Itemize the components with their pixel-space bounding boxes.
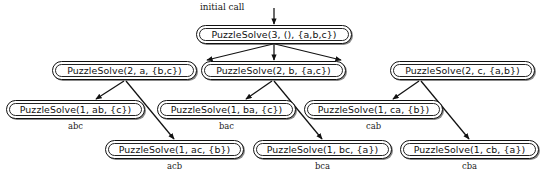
node-root-label: PuzzleSolve(3, (), {a,b,c}) — [209, 29, 338, 40]
node-leaf-ca-label: PuzzleSolve(1, ca, {b}) — [316, 104, 432, 115]
caption-bac: bac — [157, 121, 296, 131]
node-leaf-cb[interactable]: PuzzleSolve(1, cb, {a}) — [400, 140, 539, 159]
node-leaf-ac-label: PuzzleSolve(1, ac, {b}) — [117, 144, 233, 155]
initial-call-label: initial call — [200, 2, 244, 12]
caption-bca: bca — [253, 161, 392, 171]
node-level2-a-label: PuzzleSolve(2, a, {b,c}) — [65, 65, 184, 76]
node-level2-b-label: PuzzleSolve(2, b, {a,c}) — [214, 65, 333, 76]
caption-acb: acb — [105, 161, 244, 171]
edge-root-to-level2-right — [275, 44, 341, 60]
node-root[interactable]: PuzzleSolve(3, (), {a,b,c}) — [196, 25, 352, 44]
node-level2-c[interactable]: PuzzleSolve(2, c, {a,b}) — [390, 61, 535, 80]
node-level2-c-label: PuzzleSolve(2, c, {a,b}) — [403, 65, 522, 76]
caption-cba: cba — [400, 161, 539, 171]
node-leaf-cb-label: PuzzleSolve(1, cb, {a}) — [412, 144, 528, 155]
node-leaf-ac[interactable]: PuzzleSolve(1, ac, {b}) — [105, 140, 244, 159]
node-leaf-bc[interactable]: PuzzleSolve(1, bc, {a}) — [253, 140, 392, 159]
node-leaf-ca[interactable]: PuzzleSolve(1, ca, {b}) — [304, 100, 443, 119]
node-leaf-bc-label: PuzzleSolve(1, bc, {a}) — [265, 144, 381, 155]
node-level2-a[interactable]: PuzzleSolve(2, a, {b,c}) — [52, 61, 197, 80]
caption-cab: cab — [304, 121, 443, 131]
recursion-tree-diagram: initial call PuzzleSolve(3, (), {a,b,c})… — [0, 0, 548, 184]
node-leaf-ab[interactable]: PuzzleSolve(1, ab, {c}) — [6, 100, 145, 119]
node-leaf-ba-label: PuzzleSolve(1, ba, {c}) — [169, 104, 285, 115]
edge-level2a-to-ab — [96, 81, 124, 99]
node-level2-b[interactable]: PuzzleSolve(2, b, {a,c}) — [201, 61, 346, 80]
edge-root-to-level2-left — [207, 44, 273, 60]
node-leaf-ba[interactable]: PuzzleSolve(1, ba, {c}) — [157, 100, 296, 119]
node-leaf-ab-label: PuzzleSolve(1, ab, {c}) — [18, 104, 134, 115]
edge-level2b-to-ba — [246, 81, 272, 99]
edge-level2c-to-ca — [393, 81, 419, 99]
caption-abc: abc — [6, 121, 145, 131]
